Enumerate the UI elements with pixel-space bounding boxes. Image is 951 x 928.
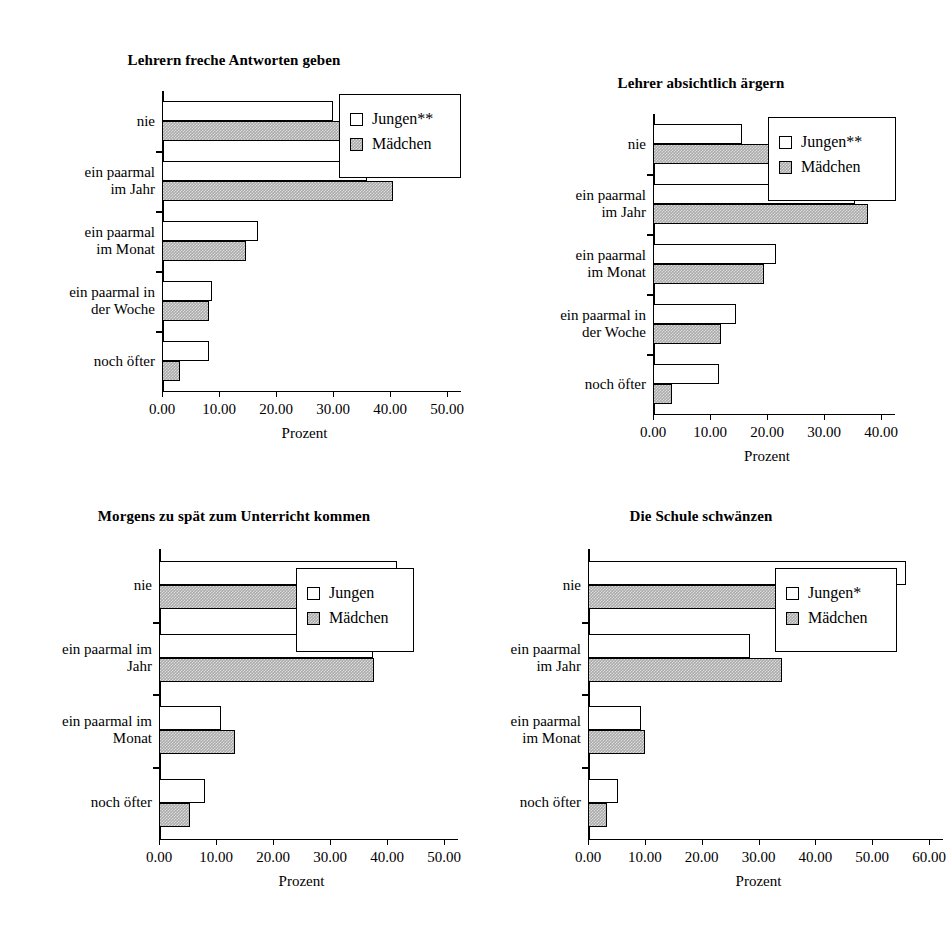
x-axis-tick <box>588 839 589 845</box>
chart-1-title: Lehrern freche Antworten geben <box>0 52 468 69</box>
x-axis-tick-label: 0.00 <box>558 849 618 866</box>
x-axis-line <box>653 414 895 415</box>
x-axis-tick <box>276 391 277 397</box>
bar-maedchen <box>653 384 672 404</box>
bar-jungen <box>588 634 750 658</box>
category-label: nie <box>467 136 646 153</box>
y-axis-tick <box>647 294 653 296</box>
category-label: noch öfter <box>0 794 152 811</box>
legend-item-maedchen: Mädchen <box>779 158 883 176</box>
y-axis-tick <box>647 354 653 356</box>
chart-3-legend: Jungen Mädchen <box>296 568 414 652</box>
chart-4-legend: Jungen* Mädchen <box>775 568 897 652</box>
bar-jungen <box>162 281 212 301</box>
x-axis-tick <box>881 414 882 420</box>
x-axis-tick-label: 20.00 <box>672 849 732 866</box>
y-axis-tick <box>647 234 653 236</box>
legend-item-jungen: Jungen* <box>786 584 884 602</box>
chart-panel-1: Lehrern freche Antworten geben noch öfte… <box>0 52 468 492</box>
y-axis-tick <box>582 622 588 624</box>
x-axis-tick-label: 50.00 <box>842 849 902 866</box>
x-axis-tick-label: 30.00 <box>729 849 789 866</box>
bar-jungen <box>588 779 618 803</box>
chart-1-legend: Jungen** Mädchen <box>339 94 461 178</box>
category-label: ein paarmal im Monat <box>467 713 581 747</box>
y-axis-tick <box>582 767 588 769</box>
bar-maedchen <box>162 241 246 261</box>
bar-maedchen <box>588 730 645 754</box>
x-axis-tick-label: 0.00 <box>623 424 683 441</box>
x-axis-tick-label: 20.00 <box>246 401 306 418</box>
y-axis-tick <box>156 151 162 153</box>
category-label: ein paarmal im Jahr <box>467 641 581 675</box>
legend-label-maedchen: Mädchen <box>808 609 868 627</box>
x-axis-tick <box>872 839 873 845</box>
x-axis-tick-label: 20.00 <box>737 424 797 441</box>
legend-swatch-jungen-icon <box>779 136 792 149</box>
bar-jungen <box>162 101 333 121</box>
chart-4-title: Die Schule schwänzen <box>467 508 935 525</box>
legend-item-jungen: Jungen** <box>779 133 883 151</box>
bar-maedchen <box>159 658 374 682</box>
x-axis-tick <box>702 839 703 845</box>
bar-maedchen <box>162 181 393 201</box>
legend-item-jungen: Jungen** <box>350 110 448 128</box>
x-axis-tick-label: 10.00 <box>189 401 249 418</box>
y-axis-tick <box>647 174 653 176</box>
x-axis-tick <box>216 839 217 845</box>
y-axis-tick <box>153 694 159 696</box>
x-axis-tick <box>444 839 445 845</box>
x-axis-tick-label: 40.00 <box>785 849 845 866</box>
bar-jungen <box>162 221 258 241</box>
category-label: nie <box>0 577 152 594</box>
category-label: ein paarmal im Monat <box>0 224 155 258</box>
y-axis-tick <box>153 767 159 769</box>
x-axis-tick-label: 10.00 <box>186 849 246 866</box>
legend-label-maedchen: Mädchen <box>372 135 432 153</box>
bar-maedchen <box>653 324 721 344</box>
x-axis-tick <box>333 391 334 397</box>
chart-2-title: Lehrer absichtlich ärgern <box>467 75 935 92</box>
y-axis-tick <box>156 331 162 333</box>
category-label: ein paarmal im Monat <box>0 713 152 747</box>
bar-maedchen <box>162 301 209 321</box>
x-axis-title: Prozent <box>558 873 951 890</box>
legend-label-maedchen: Mädchen <box>801 158 861 176</box>
category-label: ein paarmal im Jahr <box>467 187 646 221</box>
legend-swatch-jungen-icon <box>786 587 799 600</box>
legend-label-jungen: Jungen <box>329 584 374 602</box>
chart-2-legend: Jungen** Mädchen <box>768 117 896 201</box>
x-axis-tick-label: 10.00 <box>615 849 675 866</box>
x-axis-tick <box>653 414 654 420</box>
bar-maedchen <box>162 121 349 141</box>
legend-label-maedchen: Mädchen <box>329 609 389 627</box>
x-axis-tick <box>159 839 160 845</box>
bar-jungen <box>162 341 209 361</box>
legend-item-maedchen: Mädchen <box>307 609 401 627</box>
bar-jungen <box>588 706 641 730</box>
bar-maedchen <box>588 803 607 827</box>
category-label: ein paarmal in der Woche <box>467 307 646 341</box>
category-label: nie <box>467 577 581 594</box>
x-axis-tick-label: 0.00 <box>129 849 189 866</box>
bar-jungen <box>653 124 742 144</box>
x-axis-title: Prozent <box>132 425 477 442</box>
y-axis-tick <box>156 211 162 213</box>
x-axis-title: Prozent <box>623 448 911 465</box>
chart-3-title: Morgens zu spät zum Unterricht kommen <box>0 508 468 525</box>
legend-swatch-maedchen-icon <box>307 612 320 625</box>
x-axis-tick <box>162 391 163 397</box>
bar-jungen <box>653 364 719 384</box>
x-axis-tick <box>387 839 388 845</box>
bar-maedchen <box>653 204 868 224</box>
x-axis-line <box>162 391 461 392</box>
category-label: nie <box>0 113 155 130</box>
category-label: ein paarmal im Monat <box>467 247 646 281</box>
category-label: noch öfter <box>467 376 646 393</box>
x-axis-tick-label: 40.00 <box>357 849 417 866</box>
bar-jungen <box>653 244 776 264</box>
x-axis-tick <box>929 839 930 845</box>
legend-swatch-maedchen-icon <box>779 161 792 174</box>
category-label: noch öfter <box>467 794 581 811</box>
